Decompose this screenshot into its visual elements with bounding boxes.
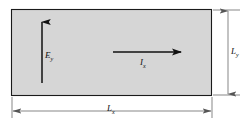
current-vector-label: Ix	[140, 58, 146, 69]
width-subscript: x	[112, 108, 115, 115]
width-dimension-label: Lx	[107, 104, 115, 115]
diagram-graphics	[0, 0, 246, 128]
field-vector-label: Ey	[45, 51, 53, 62]
figure-canvas: Ey Ix Lx Ly	[0, 0, 246, 128]
current-subscript: x	[143, 62, 146, 69]
height-subscript: y	[236, 51, 239, 58]
height-dimension-label: Ly	[231, 47, 239, 58]
field-subscript: y	[51, 55, 54, 62]
